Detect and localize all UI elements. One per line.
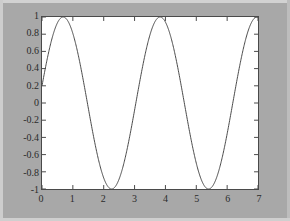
y-axis-tick-labels: 10.80.60.40.20-0.2-0.4-0.6-0.8-1 [3, 16, 39, 190]
window-frame-right-edge [287, 0, 290, 221]
x-axis-tick-labels: 01234567 [41, 194, 259, 208]
x-tick-label: 7 [249, 194, 269, 204]
sine-curve-line [42, 17, 258, 189]
figure-canvas: 10.80.60.40.20-0.2-0.4-0.6-0.8-1 0123456… [3, 3, 287, 218]
x-tick-label: 2 [93, 194, 113, 204]
y-tick-label: -0.2 [5, 115, 39, 125]
x-tick-label: 4 [156, 194, 176, 204]
y-tick-label: -0.8 [5, 168, 39, 178]
y-tick-label: 0.2 [5, 81, 39, 91]
x-tick-label: 3 [124, 194, 144, 204]
y-tick-label: -0.4 [5, 133, 39, 143]
y-tick-label: 0.6 [5, 46, 39, 56]
window-frame-bottom-edge [0, 218, 290, 221]
x-tick-label: 5 [187, 194, 207, 204]
chart-screenshot: 10.80.60.40.20-0.2-0.4-0.6-0.8-1 0123456… [0, 0, 290, 221]
x-tick-label: 0 [31, 194, 51, 204]
y-tick-label: 0 [5, 98, 39, 108]
x-tick-label: 1 [62, 194, 82, 204]
y-tick-label: -0.6 [5, 150, 39, 160]
plot-drawing-area [42, 17, 258, 189]
y-tick-label: 0.4 [5, 63, 39, 73]
y-tick-label: 1 [5, 11, 39, 21]
x-tick-label: 6 [218, 194, 238, 204]
axis-tick-marks [42, 17, 258, 189]
plot-axes-box [41, 16, 259, 190]
y-tick-label: 0.8 [5, 28, 39, 38]
